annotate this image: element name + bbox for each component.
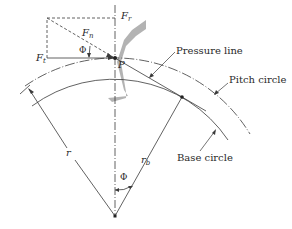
label-pressure-angle-bottom: Φ — [120, 173, 127, 182]
label-pitch-radius: r — [66, 148, 71, 158]
label-base-circle: Base circle — [177, 153, 233, 163]
fn-sub: n — [89, 32, 94, 40]
leader-base-circle — [200, 131, 215, 151]
pitch-radius-line — [29, 89, 67, 148]
gear-tooth — [108, 20, 146, 102]
label-base-radius: rb — [141, 155, 150, 167]
ft-sub: t — [43, 57, 46, 65]
pitch-radius-arrowhead — [28, 88, 34, 94]
ft-main: F — [36, 52, 43, 63]
pitch-radius-line-lower — [75, 160, 115, 216]
label-pitch-circle: Pitch circle — [229, 75, 286, 85]
label-radial-force: Fr — [121, 11, 131, 23]
label-tangential-force: Ft — [36, 53, 46, 65]
label-normal-force: Fn — [82, 28, 93, 40]
pitch-circle — [25, 58, 250, 134]
label-pressure-line: Pressure line — [176, 46, 243, 56]
diagram-graphics — [0, 0, 292, 229]
tangent-point — [180, 95, 184, 99]
pitch-radius-tick — [20, 85, 30, 94]
fr-sub: r — [128, 15, 131, 23]
pitch-point-dot — [113, 56, 117, 60]
phi-arrowhead-bottom-left — [115, 188, 119, 192]
label-pitch-point: P — [118, 60, 125, 70]
fr-main: F — [121, 10, 128, 21]
phi-arrowhead-top — [87, 53, 91, 58]
fn-main: F — [82, 27, 89, 38]
center-dot — [114, 215, 117, 218]
rb-sub: b — [146, 159, 150, 167]
gear-force-diagram: Fr Fn Ft Φ P Pressure line Pitch circle … — [0, 0, 292, 229]
leader-pitch-arrowhead — [214, 90, 219, 95]
pressure-line — [115, 58, 206, 111]
leader-pressure-line — [150, 52, 175, 77]
base-circle — [32, 79, 228, 140]
label-pressure-angle-top: Φ — [79, 46, 86, 55]
